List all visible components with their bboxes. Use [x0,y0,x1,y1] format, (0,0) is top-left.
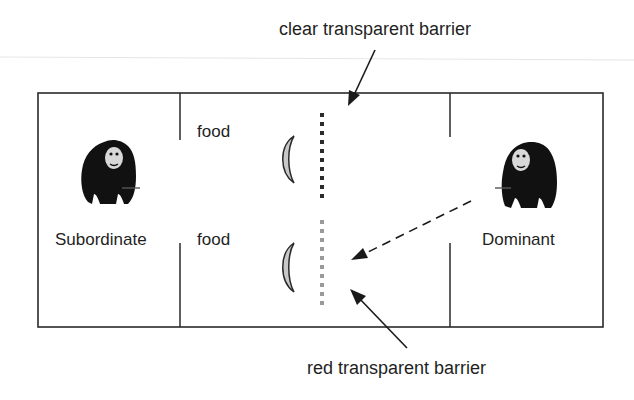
arrow-red-barrier [350,289,407,348]
food-label-bottom: food [197,230,230,250]
subordinate-label: Subordinate [55,230,147,250]
dominant-line-of-sight-arrow [351,201,471,260]
clear-barrier [320,113,324,198]
banana-icon-bottom [283,243,294,292]
clear-barrier-label: clear transparent barrier [279,19,471,40]
red-barrier [320,220,324,305]
scan-artifact-line [0,57,634,60]
chimpanzee-icon-dominant [495,142,557,208]
food-label-top: food [197,122,230,142]
dominant-label: Dominant [482,230,555,250]
chimpanzee-icon-subordinate [81,140,140,204]
red-barrier-label: red transparent barrier [307,358,486,379]
banana-icon-top [283,136,294,183]
enclosure-outline [38,93,603,327]
experiment-diagram [0,0,634,400]
